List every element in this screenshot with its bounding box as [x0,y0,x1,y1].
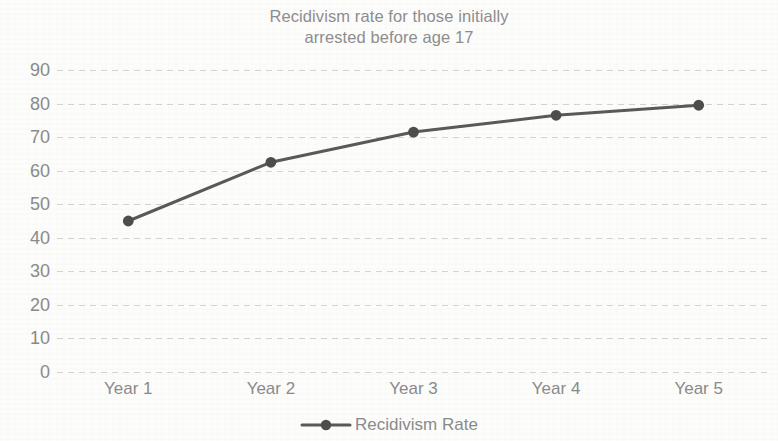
data-point-marker [123,216,134,227]
y-axis-tick-label: 30 [6,262,50,280]
data-point-marker [551,110,562,121]
plot-area [57,70,770,372]
series-markers [123,100,704,227]
chart-container: Recidivism rate for those initially arre… [0,0,778,441]
x-axis-tick-label: Year 3 [389,378,438,400]
data-point-marker [693,100,704,111]
chart-title-line-1: Recidivism rate for those initially [0,6,778,27]
line-marker-icon [300,417,352,433]
series-recidivism-rate [57,70,770,372]
x-axis-tick-label: Year 2 [247,378,296,400]
y-axis-tick-label: 70 [6,128,50,146]
x-axis-tick-label: Year 5 [674,378,723,400]
x-axis-tick-label: Year 1 [104,378,153,400]
data-point-marker [408,127,419,138]
gridline [57,372,770,373]
series-line [128,105,698,221]
y-axis: 0102030405060708090 [0,70,50,372]
data-point-marker [266,157,277,168]
x-axis-tick-label: Year 4 [532,378,581,400]
legend-label: Recidivism Rate [355,415,478,435]
y-axis-tick-label: 90 [6,61,50,79]
chart-title: Recidivism rate for those initially arre… [0,6,778,48]
y-axis-tick-label: 10 [6,329,50,347]
y-axis-tick-label: 20 [6,296,50,314]
y-axis-tick-label: 50 [6,195,50,213]
chart-legend: Recidivism Rate [0,415,778,435]
x-axis: Year 1Year 2Year 3Year 4Year 5 [57,378,770,404]
y-axis-tick-label: 0 [6,363,50,381]
y-axis-tick-label: 40 [6,229,50,247]
chart-title-line-2: arrested before age 17 [0,27,778,48]
y-axis-tick-label: 60 [6,162,50,180]
y-axis-tick-label: 80 [6,95,50,113]
